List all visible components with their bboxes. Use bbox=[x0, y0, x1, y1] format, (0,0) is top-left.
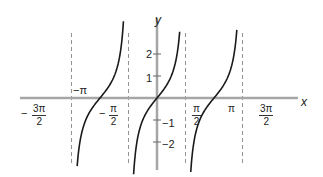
x-tick-label-neg-pi: −π bbox=[73, 85, 87, 96]
fraction-denominator: 2 bbox=[109, 116, 118, 127]
x-tick-sign-neg-pi-2: − bbox=[99, 107, 105, 119]
fraction-numerator: π bbox=[109, 104, 118, 116]
y-axis-label: y bbox=[155, 14, 161, 26]
y-tick-label-2: 2 bbox=[146, 49, 152, 60]
tangent-plot bbox=[0, 0, 323, 177]
y-tick-label-neg2: −2 bbox=[162, 139, 175, 150]
x-axis-label: x bbox=[301, 96, 307, 108]
y-tick-label-1: 1 bbox=[146, 73, 152, 84]
x-tick-label-neg-pi-2: π 2 bbox=[109, 104, 118, 127]
axes bbox=[20, 18, 298, 170]
x-tick-label-neg-3pi-2: 3π 2 bbox=[32, 104, 46, 127]
fraction-denominator: 2 bbox=[259, 116, 273, 127]
x-tick-sign-neg-3pi-2: − bbox=[21, 107, 27, 119]
y-tick-label-neg1: −1 bbox=[162, 118, 175, 129]
tangent-branch bbox=[191, 30, 237, 172]
x-tick-label-3pi-2: 3π 2 bbox=[259, 104, 273, 127]
fraction-denominator: 2 bbox=[32, 116, 46, 127]
x-tick-label-pi: π bbox=[228, 104, 235, 114]
fraction-numerator: 3π bbox=[32, 104, 46, 116]
fraction-denominator: 2 bbox=[192, 116, 201, 127]
fraction-numerator: 3π bbox=[259, 104, 273, 116]
fraction-numerator: π bbox=[192, 104, 201, 116]
x-tick-label-pi-2: π 2 bbox=[192, 104, 201, 127]
